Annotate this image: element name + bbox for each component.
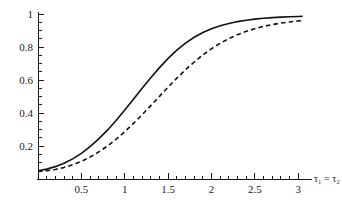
x-tick-label: 0.5	[75, 183, 89, 195]
chart-figure: 0.20.40.60.81 0.511.522.53 τ₁ = τ₂	[0, 0, 342, 209]
y-axis-tick-labels: 0.20.40.60.81	[19, 8, 33, 152]
x-axis-tick-labels: 0.511.522.53	[75, 183, 302, 195]
y-tick-label: 0.6	[19, 74, 33, 86]
x-tick-label: 2	[209, 183, 215, 195]
series-line-dashed	[38, 20, 303, 171]
y-tick-label: 0.8	[19, 41, 33, 53]
x-axis-label: τ₁ = τ₂	[314, 173, 340, 184]
x-tick-label: 3	[296, 183, 302, 195]
x-tick-label: 1.5	[161, 183, 175, 195]
y-tick-label: 0.4	[19, 107, 33, 119]
y-axis-ticks	[38, 14, 44, 171]
plot-area: 0.20.40.60.81 0.511.522.53 τ₁ = τ₂	[0, 0, 342, 209]
x-tick-label: 2.5	[248, 183, 262, 195]
y-tick-label: 1	[28, 8, 34, 20]
x-tick-label: 1	[122, 183, 128, 195]
y-tick-label: 0.2	[19, 140, 33, 152]
series-line-solid	[38, 16, 303, 170]
x-axis-ticks	[47, 173, 299, 179]
